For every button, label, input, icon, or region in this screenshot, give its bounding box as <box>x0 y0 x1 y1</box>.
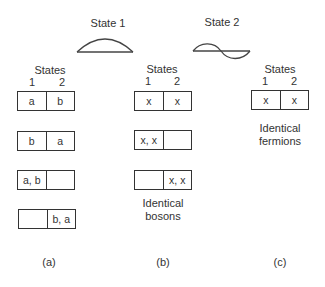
col-b-header: States <box>142 63 182 75</box>
state-1-label: State 1 <box>88 17 128 29</box>
col-c-row-1: x x <box>251 90 309 110</box>
col-b-caption: Identical bosons <box>133 197 193 223</box>
cell <box>163 131 192 149</box>
panel-label-a: (a) <box>34 256 64 268</box>
cell: x <box>163 92 192 110</box>
col-b-row-3: x, x <box>134 170 192 190</box>
cell: b <box>46 92 75 110</box>
cell <box>135 171 163 189</box>
col-a-row-4: b, a <box>18 209 76 229</box>
state-1-arc <box>77 39 133 52</box>
cell: x <box>252 91 280 109</box>
cell: x, x <box>163 171 192 189</box>
state-2-label: State 2 <box>202 16 242 28</box>
col-a-row-2: b a <box>17 131 75 151</box>
cell: b, a <box>47 210 76 228</box>
cell: a, b <box>18 171 46 189</box>
col-a-state-2: 2 <box>55 76 69 88</box>
caption-line: Identical <box>133 197 193 210</box>
col-b-row-1: x x <box>134 91 192 111</box>
cell: x <box>280 91 309 109</box>
col-b-state-2: 2 <box>170 75 184 87</box>
col-c-state-2: 2 <box>287 75 301 87</box>
panel-label-c: (c) <box>265 256 295 268</box>
caption-line: fermions <box>250 135 310 148</box>
panel-label-b: (b) <box>148 256 178 268</box>
caption-line: Identical <box>250 122 310 135</box>
cell: x <box>135 92 163 110</box>
col-a-row-3: a, b <box>17 170 75 190</box>
state-2-wave <box>193 44 250 59</box>
col-c-caption: Identical fermions <box>250 122 310 148</box>
col-c-header: States <box>260 63 300 75</box>
col-a-header: States <box>30 64 70 76</box>
col-c-state-1: 1 <box>258 75 272 87</box>
cell <box>19 210 47 228</box>
cell: b <box>18 132 46 150</box>
col-a-state-1: 1 <box>25 76 39 88</box>
col-a-row-1: a b <box>17 91 75 111</box>
col-b-row-2: x, x <box>134 130 192 150</box>
cell: a <box>18 92 46 110</box>
cell: a <box>46 132 75 150</box>
col-b-state-1: 1 <box>141 75 155 87</box>
cell: x, x <box>135 131 163 149</box>
cell <box>46 171 75 189</box>
caption-line: bosons <box>133 210 193 223</box>
